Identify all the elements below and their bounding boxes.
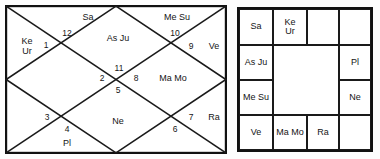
house-number: 1 — [44, 40, 49, 50]
house-number: 10 — [170, 28, 180, 38]
south-chart-cell[interactable] — [307, 9, 339, 45]
house-number: 11 — [115, 63, 124, 73]
house-planets: As Ju — [107, 33, 130, 43]
south-chart-cell[interactable] — [339, 115, 371, 150]
south-indian-rashi-chart[interactable]: SaKe UrAs JuPlMe SuNeVeMa MoRa — [237, 7, 373, 152]
house-number: 9 — [189, 41, 194, 51]
south-chart-cell[interactable]: Ke Ur — [273, 9, 307, 45]
house-planets: Ne — [112, 116, 124, 126]
house-number: 8 — [134, 73, 139, 83]
south-chart-center-panel — [273, 45, 339, 115]
south-chart-cell[interactable]: As Ju — [239, 45, 273, 80]
south-chart-cell[interactable]: Sa — [239, 9, 273, 45]
house-number: 5 — [116, 85, 121, 95]
north-indian-rashi-chart[interactable]: 112111098765432 KeUrSaAs JuMe SuVeMa MoR… — [5, 5, 227, 154]
north-chart-svg: 112111098765432 KeUrSaAs JuMe SuVeMa MoR… — [5, 5, 227, 154]
house-planets: Ra — [208, 112, 220, 122]
house-planets: Sa — [82, 12, 93, 22]
house-number: 2 — [100, 73, 105, 83]
house-planets: Ve — [209, 41, 220, 51]
house-planets: Pl — [63, 138, 71, 148]
house-planets: Me Su — [164, 12, 190, 22]
house-number: 4 — [65, 124, 70, 134]
astrology-chart-pair: 112111098765432 KeUrSaAs JuMe SuVeMa MoR… — [0, 0, 380, 159]
south-chart-cell[interactable]: Me Su — [239, 80, 273, 115]
south-chart-cell[interactable]: Ve — [239, 115, 273, 150]
house-number: 12 — [62, 28, 72, 38]
south-chart-cell[interactable]: Pl — [339, 45, 371, 80]
house-number: 6 — [173, 124, 178, 134]
house-planets: Ma Mo — [159, 73, 187, 83]
south-chart-cell[interactable]: Ne — [339, 80, 371, 115]
house-number: 3 — [45, 112, 50, 122]
south-chart-grid: SaKe UrAs JuPlMe SuNeVeMa MoRa — [239, 9, 371, 150]
south-chart-cell[interactable] — [339, 9, 371, 45]
south-chart-cell[interactable]: Ma Mo — [273, 115, 307, 150]
south-chart-cell[interactable]: Ra — [307, 115, 339, 150]
house-number: 7 — [189, 112, 194, 122]
house-planets: KeUr — [21, 36, 32, 56]
